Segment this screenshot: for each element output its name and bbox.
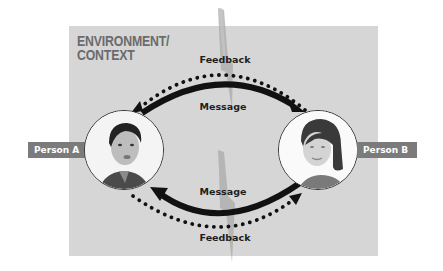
noise-bolt-icon bbox=[218, 8, 235, 262]
person-b-avatar bbox=[278, 110, 358, 190]
bottom-message-label: Message bbox=[200, 186, 247, 197]
person-b-tag: Person B bbox=[357, 142, 417, 158]
person-a-avatar bbox=[84, 110, 164, 190]
person-a-tag: Person A bbox=[28, 142, 86, 158]
man-portrait-icon bbox=[85, 111, 164, 190]
top-feedback-label: Feedback bbox=[200, 54, 251, 65]
top-message-label: Message bbox=[200, 101, 247, 112]
woman-portrait-icon bbox=[279, 111, 358, 190]
bottom-feedback-label: Feedback bbox=[200, 232, 251, 243]
communication-diagram bbox=[0, 0, 443, 271]
bottom-feedback-arrowhead-icon bbox=[289, 193, 302, 205]
